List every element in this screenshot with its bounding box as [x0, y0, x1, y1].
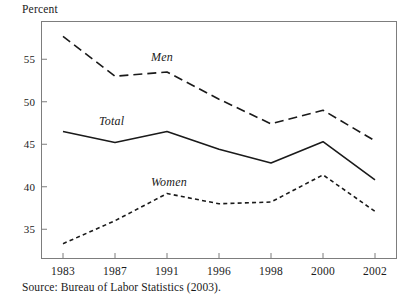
plot-area — [41, 21, 397, 259]
series-line-total — [63, 132, 375, 180]
x-tick-label: 1987 — [92, 265, 138, 277]
series-label-women: Women — [151, 175, 187, 190]
series-label-men: Men — [151, 50, 173, 65]
line-chart — [41, 21, 397, 259]
x-tick-label: 1991 — [144, 265, 190, 277]
y-tick-label: 40 — [9, 181, 35, 193]
x-tick-label: 2002 — [352, 265, 398, 277]
y-tick-label: 50 — [9, 96, 35, 108]
series-label-total: Total — [99, 114, 124, 129]
x-tick-label: 2000 — [300, 265, 346, 277]
y-tick-label: 45 — [9, 138, 35, 150]
figure: Percent 3540455055 198319871991199619982… — [0, 0, 411, 298]
y-axis-title: Percent — [22, 3, 58, 15]
source-note: Source: Bureau of Labor Statistics (2003… — [22, 281, 221, 293]
y-tick-label: 55 — [9, 53, 35, 65]
x-tick-label: 1996 — [196, 265, 242, 277]
y-tick-label: 35 — [9, 223, 35, 235]
series-line-women — [63, 175, 375, 244]
x-tick-label: 1998 — [248, 265, 294, 277]
x-tick-label: 1983 — [40, 265, 86, 277]
